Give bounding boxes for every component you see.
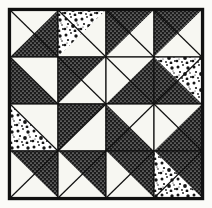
unit-r3c3	[154, 151, 202, 198]
unit-r3c0	[10, 151, 58, 198]
unit-r1c3	[154, 57, 202, 104]
unit-r2c1	[58, 104, 106, 151]
quilt-row-0	[10, 10, 202, 57]
unit-r2c0	[10, 104, 58, 151]
unit-r1c1	[58, 57, 106, 104]
unit-r1c2	[106, 57, 154, 104]
quilt-row-1	[10, 57, 202, 104]
unit-r0c1-b	[58, 10, 106, 57]
unit-r3c1	[58, 151, 106, 198]
unit-r0c1	[10, 10, 58, 57]
unit-r3c2	[106, 151, 154, 198]
quilt-row-3	[10, 151, 202, 198]
quilt-block-figure: Pinwheel Star Quilt Block	[0, 0, 212, 208]
unit-r0c2	[106, 10, 154, 57]
quilt-row-2	[10, 104, 202, 151]
unit-r0c3	[154, 10, 202, 57]
unit-r1c0	[10, 57, 58, 104]
quilt-block-diagram	[0, 0, 212, 208]
unit-r2c2	[106, 104, 154, 151]
unit-r2c3	[154, 104, 202, 151]
